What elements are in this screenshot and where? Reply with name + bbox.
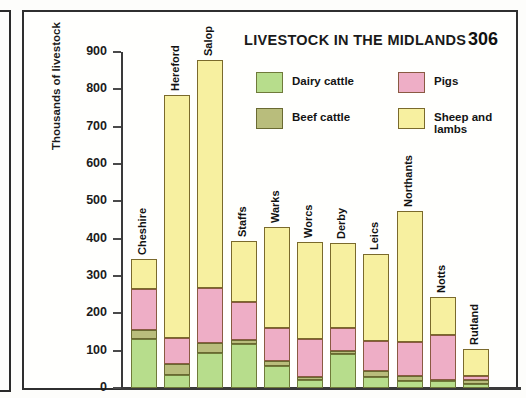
y-axis-tick-mark (113, 350, 121, 352)
bar-segment-beef[interactable] (264, 361, 290, 366)
bar-segment-dairy[interactable] (430, 381, 456, 388)
bar-category-label: Derby (335, 208, 347, 239)
y-axis-tick-mark (113, 312, 121, 314)
bar-segment-beef[interactable] (330, 351, 356, 354)
y-axis-tick-mark (113, 238, 121, 240)
bar-category-label: Salop (202, 26, 214, 56)
bar-segment-pigs[interactable] (297, 339, 323, 376)
bar-stack[interactable]: Staffs (231, 241, 257, 388)
bar-category-label: Rutland (468, 304, 480, 345)
bar-segment-sheep[interactable] (197, 60, 223, 288)
bar-segment-pigs[interactable] (197, 288, 223, 343)
bar-stack[interactable]: Hereford (164, 95, 190, 388)
bar-segment-pigs[interactable] (363, 341, 389, 371)
y-axis-tick-mark (113, 387, 121, 389)
y-axis-ticks: 9008007006005004003002001000 (24, 12, 121, 398)
plot-area: CheshireHerefordSalopStaffsWarksWorcsDer… (121, 52, 525, 388)
bar-stack[interactable]: Rutland (463, 349, 489, 388)
y-axis-tick-label: 0 (100, 380, 107, 394)
bar-segment-beef[interactable] (197, 343, 223, 353)
bar-stack[interactable]: Warks (264, 227, 290, 388)
bar-segment-pigs[interactable] (164, 338, 190, 364)
bar-segment-dairy[interactable] (297, 380, 323, 388)
bar-segment-sheep[interactable] (297, 242, 323, 339)
page-edge-margin (0, 10, 11, 392)
y-axis-tick-label: 900 (86, 44, 107, 58)
bar-segment-dairy[interactable] (264, 366, 290, 388)
bar-category-label: Hereford (169, 45, 181, 91)
bar-segment-dairy[interactable] (397, 381, 423, 388)
bar-segment-beef[interactable] (164, 364, 190, 374)
bar-segment-dairy[interactable] (363, 377, 389, 388)
bar-category-label: Worcs (302, 205, 314, 238)
bar-segment-sheep[interactable] (164, 95, 190, 338)
bar-segment-pigs[interactable] (264, 328, 290, 361)
bar-segment-beef[interactable] (397, 376, 423, 381)
y-axis-tick-label: 600 (86, 156, 107, 170)
bar-segment-dairy[interactable] (231, 344, 257, 388)
figure-frame: LIVESTOCK IN THE MIDLANDS 306 Dairy catt… (22, 10, 518, 390)
bar-segment-sheep[interactable] (330, 243, 356, 328)
bar-stack[interactable]: Salop (197, 60, 223, 388)
y-axis-tick-label: 700 (86, 119, 107, 133)
bar-segment-dairy[interactable] (131, 339, 157, 388)
bar-segment-sheep[interactable] (363, 254, 389, 342)
bar-segment-pigs[interactable] (463, 376, 489, 380)
bar-stack[interactable]: Leics (363, 254, 389, 388)
y-axis-tick-label: 300 (86, 268, 107, 282)
bar-stack[interactable]: Worcs (297, 242, 323, 388)
bar-segment-beef[interactable] (363, 371, 389, 377)
y-axis-tick-mark (113, 88, 121, 90)
bar-segment-dairy[interactable] (330, 354, 356, 388)
bar-stack[interactable]: Northants (397, 211, 423, 388)
bar-segment-pigs[interactable] (430, 335, 456, 380)
bar-segment-beef[interactable] (463, 380, 489, 384)
bar-segment-sheep[interactable] (131, 259, 157, 289)
bar-segment-sheep[interactable] (463, 349, 489, 376)
bar-stack[interactable]: Cheshire (131, 259, 157, 388)
y-axis-tick-mark (113, 200, 121, 202)
y-axis-tick-label: 800 (86, 81, 107, 95)
bar-segment-dairy[interactable] (164, 375, 190, 388)
y-axis-tick-label: 100 (86, 343, 107, 357)
bar-segment-dairy[interactable] (197, 353, 223, 388)
bar-category-label: Cheshire (136, 208, 148, 255)
y-axis-tick-label: 200 (86, 305, 107, 319)
bar-category-label: Leics (368, 221, 380, 249)
bar-segment-beef[interactable] (231, 340, 257, 344)
bar-segment-pigs[interactable] (131, 289, 157, 330)
page-title: LIVESTOCK IN THE MIDLANDS (244, 32, 466, 48)
bar-segment-beef[interactable] (131, 330, 157, 339)
bar-segment-beef[interactable] (297, 377, 323, 380)
y-axis-tick-label: 500 (86, 193, 107, 207)
bar-segment-sheep[interactable] (231, 241, 257, 303)
y-axis-tick-mark (113, 126, 121, 128)
bar-segment-pigs[interactable] (231, 302, 257, 340)
bar-stack[interactable]: Derby (330, 243, 356, 388)
y-axis-tick-mark (113, 51, 121, 53)
bar-segment-sheep[interactable] (430, 297, 456, 335)
bar-category-label: Northants (402, 155, 414, 207)
bar-category-label: Notts (435, 264, 447, 292)
figure-number: 306 (468, 29, 498, 50)
bar-segment-sheep[interactable] (397, 211, 423, 343)
y-axis-tick-label: 400 (86, 231, 107, 245)
bar-segment-pigs[interactable] (397, 342, 423, 375)
bar-category-label: Staffs (236, 206, 248, 237)
bar-segment-sheep[interactable] (264, 227, 290, 327)
bar-stack[interactable]: Notts (430, 297, 456, 388)
y-axis-tick-mark (113, 163, 121, 165)
bar-segment-dairy[interactable] (463, 384, 489, 388)
bar-segment-pigs[interactable] (330, 328, 356, 350)
bar-category-label: Warks (269, 191, 281, 224)
y-axis-tick-mark (113, 275, 121, 277)
